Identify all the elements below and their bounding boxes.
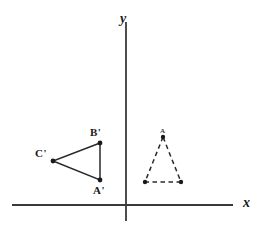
vertex-dot-preimage-apex xyxy=(161,135,165,139)
point-label-preimage-apex: A xyxy=(160,128,165,135)
point-label-a-prime: A' xyxy=(93,185,105,196)
triangle-a-prime-b-prime-c-prime xyxy=(53,143,100,180)
figure-canvas xyxy=(0,0,269,230)
vertex-dot-b-prime xyxy=(98,141,103,146)
x-axis-label: x xyxy=(243,196,250,210)
coordinate-plane-figure: y x B' C' A' A xyxy=(0,0,269,230)
point-label-c-prime: C' xyxy=(35,148,47,159)
y-axis-label: y xyxy=(120,12,126,26)
vertex-dot-c-prime xyxy=(51,159,56,164)
vertex-dot-preimage-bottom-left xyxy=(143,180,147,184)
vertex-dot-a-prime xyxy=(98,178,103,183)
vertex-dot-preimage-bottom-right xyxy=(179,180,183,184)
point-label-b-prime: B' xyxy=(90,127,101,138)
triangle-preimage-dashed xyxy=(145,137,181,182)
